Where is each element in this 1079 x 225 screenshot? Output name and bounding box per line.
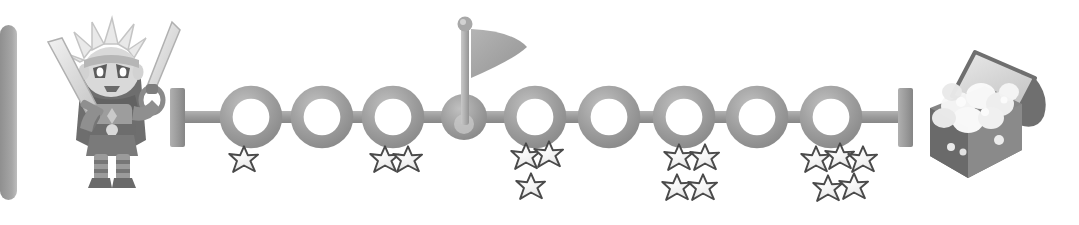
star-group-1 — [229, 146, 258, 172]
star-icon — [813, 175, 842, 201]
level-node-8[interactable] — [726, 86, 789, 149]
level-node-2[interactable] — [291, 86, 354, 149]
treasure-chest[interactable] — [930, 52, 1046, 178]
level-node-9[interactable] — [800, 86, 863, 149]
flag-pole — [461, 27, 469, 125]
star-icon — [370, 146, 399, 172]
scene-canvas — [0, 0, 1079, 225]
flag-pennant — [471, 29, 527, 78]
star-icon — [839, 173, 868, 199]
level-node-6[interactable] — [578, 86, 641, 149]
star-icon — [662, 174, 691, 200]
star-icon — [688, 174, 717, 200]
level-node-group — [220, 86, 863, 149]
star-group-3 — [511, 141, 563, 199]
star-icon — [848, 146, 877, 172]
level-node-7[interactable] — [653, 86, 716, 149]
start-post — [170, 88, 185, 147]
star-group-2 — [370, 146, 422, 172]
star-icon — [516, 173, 545, 199]
hero-boot-left — [88, 178, 112, 188]
star-group-5 — [801, 143, 877, 201]
star-group-4 — [662, 144, 719, 200]
level-node-1[interactable] — [220, 86, 283, 149]
star-icon — [393, 146, 422, 172]
hero-boot-right — [112, 178, 136, 188]
star-icon — [664, 144, 693, 170]
warrior-avatar[interactable] — [48, 18, 180, 188]
level-node-5[interactable] — [504, 86, 567, 149]
level-node-3[interactable] — [362, 86, 425, 149]
star-icon — [690, 144, 719, 170]
hero-leg-right — [116, 154, 130, 180]
star-icon — [229, 146, 258, 172]
hero-leg-left — [94, 154, 108, 180]
end-post — [898, 88, 913, 147]
screen-edge-bar — [0, 25, 17, 200]
level-path-scene: Level Progress Path — [0, 0, 1079, 225]
